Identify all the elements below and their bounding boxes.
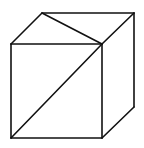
face-diagonals [11,13,102,138]
diagonal-line [11,44,102,138]
cube-edge [102,107,134,138]
cube-edge [102,13,134,44]
cube-edge [11,13,42,44]
cube-diagram [0,0,144,148]
diagonal-line [42,13,102,44]
cube-svg [0,0,144,148]
